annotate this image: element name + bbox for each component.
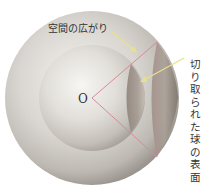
sphere-cone-diagram: O 空間の広がり — [0, 0, 204, 196]
outer-cap-surface — [152, 42, 179, 157]
surface-label: 切り取られた球の表面 — [189, 58, 201, 183]
center-label-O: O — [78, 92, 88, 106]
space-label: 空間の広がり — [48, 22, 108, 34]
